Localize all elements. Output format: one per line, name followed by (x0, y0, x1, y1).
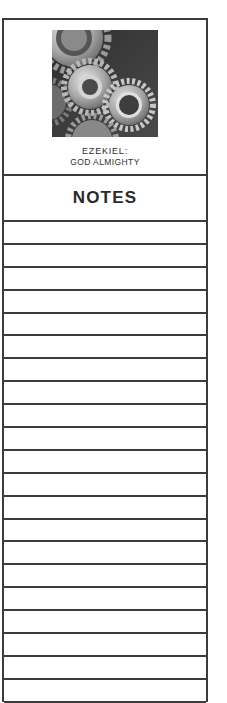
note-line (4, 565, 206, 588)
note-line (4, 634, 206, 657)
note-line (4, 314, 206, 337)
notes-lines (4, 222, 206, 703)
note-line (4, 336, 206, 359)
note-line (4, 657, 206, 680)
note-line (4, 359, 206, 382)
note-line (4, 542, 206, 565)
note-line (4, 268, 206, 291)
note-line (4, 291, 206, 314)
note-line (4, 497, 206, 520)
note-line (4, 245, 206, 268)
note-line (4, 405, 206, 428)
note-line (4, 588, 206, 611)
series-title-line1: EZEKIEL: (4, 146, 206, 156)
notes-card: EZEKIEL: GOD ALMIGHTY NOTES (2, 18, 208, 702)
note-line (4, 611, 206, 634)
note-line (4, 451, 206, 474)
note-line (4, 680, 206, 703)
note-line (4, 520, 206, 543)
note-line (4, 428, 206, 451)
notes-heading: NOTES (73, 189, 138, 207)
note-line (4, 222, 206, 245)
notes-header: NOTES (4, 176, 206, 222)
series-title-line2: GOD ALMIGHTY (4, 157, 206, 167)
gears-image (52, 30, 158, 137)
note-line (4, 382, 206, 405)
gears-icon (52, 30, 158, 137)
cover-section: EZEKIEL: GOD ALMIGHTY (4, 20, 206, 176)
note-line (4, 474, 206, 497)
